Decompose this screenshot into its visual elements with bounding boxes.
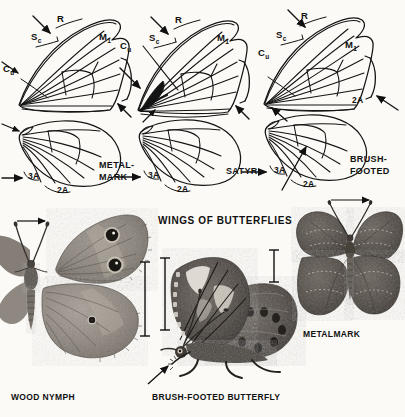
vein-label-2a-forewing-brushfooted: 2A	[352, 96, 363, 106]
vein-label-m1-forewing-brushfooted: M1	[345, 40, 357, 52]
plate-title: WINGS OF BUTTERFLIES	[158, 215, 250, 226]
vein-label-2a-hindwing-brushfooted: 2A	[303, 180, 314, 190]
family-label-satyr: SATYR	[226, 166, 258, 176]
vein-label-cu-forewing-metalmark: Cu	[3, 64, 14, 76]
vein-label-r-forewing-brushfooted: R	[301, 11, 308, 22]
family-label-metalmark-line2: MARK	[99, 172, 127, 182]
specimen-label-brush-footed-butterfly: BRUSH-FOOTED BUTTERFLY	[152, 393, 280, 403]
family-label-brushfooted-line1: BRUSH-	[350, 154, 387, 164]
specimen-label-metalmark: METALMARK	[303, 330, 360, 340]
vein-label-m1-forewing-metalmark: M1	[99, 32, 111, 44]
vein-label-sc-forewing-satyr: Sc	[149, 33, 160, 45]
vein-label-sc-forewing-metalmark: Sc	[31, 32, 42, 44]
family-label-metalmark-line1: METAL-	[99, 160, 134, 170]
vein-label-sc-forewing-brushfooted: Sc	[276, 30, 287, 42]
specimen-label-wood-nymph: WOOD NYMPH	[11, 393, 75, 403]
vein-label-2a-hindwing-metalmark: 2A	[57, 186, 68, 196]
vein-label-cu-forewing-satyr: Cu	[120, 41, 131, 53]
vein-label-cu-forewing-brushfooted: Cu	[258, 48, 269, 60]
vein-label-3a-hindwing-metalmark: 3A	[28, 172, 39, 182]
family-label-brushfooted-line2: FOOTED	[350, 166, 390, 176]
plate-artwork	[0, 0, 405, 417]
vein-label-r-forewing-satyr: R	[175, 15, 182, 26]
butterfly-wings-plate: R Sc M1 Cu R Sc M1 Cu R Sc M1 Cu 2A 3A 2…	[0, 0, 405, 417]
vein-label-2a-hindwing-satyr: 2A	[177, 185, 188, 195]
vein-label-3a-hindwing-brushfooted: 3A	[274, 166, 285, 176]
vein-label-m1-forewing-satyr: M1	[217, 33, 229, 45]
vein-label-3a-hindwing-satyr: 3A	[148, 171, 159, 181]
vein-label-r-forewing-metalmark: R	[57, 14, 64, 25]
